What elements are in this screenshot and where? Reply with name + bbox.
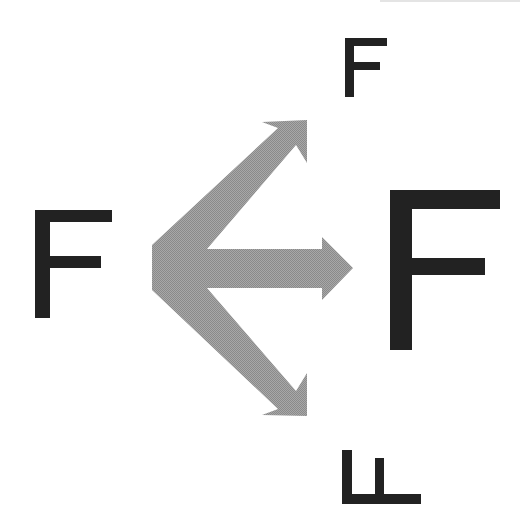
letter-f-original: [35, 210, 112, 318]
diagram-canvas: [0, 0, 520, 531]
letter-f-small-top: [345, 38, 387, 97]
arrows-shape: [152, 120, 353, 416]
letter-f-large-right: [390, 190, 500, 350]
letter-f-rotated-bottom: [342, 450, 421, 504]
